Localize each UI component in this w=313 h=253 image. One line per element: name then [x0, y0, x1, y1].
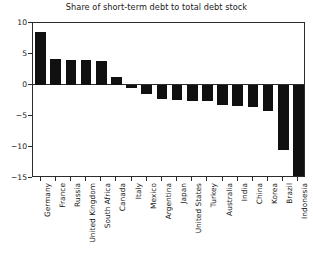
bar-chart-figure: Share of short-term debt to total debt s…: [0, 0, 313, 253]
x-tick-label: South Africa: [103, 183, 112, 228]
x-tick-mark: [206, 177, 207, 181]
bar: [172, 85, 183, 100]
bar: [187, 85, 198, 101]
x-tick-label: Mexico: [149, 183, 158, 209]
x-tick-mark: [115, 177, 116, 181]
bar: [202, 85, 213, 101]
x-tick-label: China: [255, 183, 264, 204]
x-tick-label: India: [240, 183, 249, 201]
x-tick-mark: [161, 177, 162, 181]
y-tick-mark: [28, 177, 32, 178]
x-tick-label: Italy: [134, 183, 143, 199]
x-tick-mark: [131, 177, 132, 181]
y-tick-label: 0: [22, 80, 27, 89]
x-tick-mark: [70, 177, 71, 181]
chart-title: Share of short-term debt to total debt s…: [0, 2, 313, 12]
bar: [96, 61, 107, 85]
bar: [278, 85, 289, 150]
bar: [293, 85, 304, 176]
y-tick-label: −10: [11, 142, 27, 151]
x-tick-label: Turkey: [209, 183, 218, 207]
x-tick-mark: [267, 177, 268, 181]
x-tick-label: United States: [194, 183, 203, 233]
y-tick-label: −5: [16, 111, 27, 120]
x-tick-mark: [55, 177, 56, 181]
x-tick-label: France: [58, 183, 67, 208]
x-tick-mark: [297, 177, 298, 181]
x-tick-mark: [252, 177, 253, 181]
bar: [217, 85, 228, 105]
x-tick-mark: [40, 177, 41, 181]
x-tick-mark: [146, 177, 147, 181]
x-tick-label: Brazil: [285, 183, 294, 204]
bar: [232, 85, 243, 106]
bar: [50, 59, 61, 85]
x-tick-label: Canada: [118, 183, 127, 211]
x-tick-label: Russia: [73, 183, 82, 207]
x-tick-label: Germany: [43, 183, 52, 217]
x-tick-mark: [237, 177, 238, 181]
y-tick-label: −15: [11, 173, 27, 182]
x-tick-mark: [222, 177, 223, 181]
bar: [157, 85, 168, 99]
x-tick-mark: [191, 177, 192, 181]
bar: [81, 60, 92, 85]
x-tick-label: Japan: [179, 183, 188, 204]
x-tick-label: United Kingdom: [88, 183, 97, 243]
x-tick-mark: [282, 177, 283, 181]
x-tick-label: Korea: [270, 183, 279, 204]
x-tick-mark: [85, 177, 86, 181]
x-tick-mark: [100, 177, 101, 181]
bar: [263, 85, 274, 111]
y-tick-label: 5: [22, 49, 27, 58]
y-tick-label: 10: [17, 18, 27, 27]
bar: [126, 85, 137, 88]
x-tick-label: Australia: [225, 183, 234, 216]
bar: [111, 77, 122, 85]
x-tick-label: Indonesia: [300, 183, 309, 219]
bar: [141, 85, 152, 94]
bar: [248, 85, 259, 107]
x-tick-label: Argentina: [164, 183, 173, 219]
bar: [35, 32, 46, 85]
x-tick-mark: [176, 177, 177, 181]
bar: [66, 60, 77, 85]
plot-area: [32, 22, 305, 177]
